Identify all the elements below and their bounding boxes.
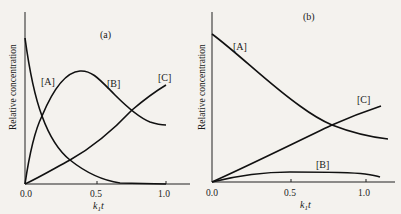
figure: 0.0 0.5 1.0 k1t Relative concentration (… [0, 0, 401, 214]
curve-C-a [25, 85, 166, 184]
series-label-A-b: [A] [233, 41, 247, 52]
panel-a: 0.0 0.5 1.0 k1t Relative concentration (… [8, 12, 190, 213]
x-axis-label-a: k1t [93, 200, 104, 213]
y-axis-label-b: Relative concentration [197, 44, 207, 130]
x-tick-label-10-a: 1.0 [158, 189, 170, 199]
panel-b: 0.0 0.5 1.0 k1t Relative concentration (… [197, 11, 395, 212]
x-tick-label-0-a: 0.0 [20, 189, 32, 199]
series-label-C-a: [C] [158, 72, 171, 83]
x-tick-label-10-b: 1.0 [358, 188, 370, 198]
x-axis-label-b: k1t [300, 199, 311, 212]
series-label-C-b: [C] [357, 94, 370, 105]
series-label-A-a: [A] [41, 76, 55, 87]
series-label-B-a: [B] [107, 78, 120, 89]
curve-B-b [212, 172, 380, 182]
x-tick-label-05-b: 0.5 [284, 188, 296, 198]
y-axis-label-a: Relative concentration [8, 44, 18, 130]
curve-A-a [25, 38, 166, 184]
x-tick-label-0-b: 0.0 [206, 188, 218, 198]
series-label-B-b: [B] [316, 159, 329, 170]
panel-label-a: (a) [100, 29, 111, 41]
x-tick-label-05-a: 0.5 [90, 189, 102, 199]
curve-C-b [212, 106, 381, 182]
panel-label-b: (b) [303, 11, 315, 23]
